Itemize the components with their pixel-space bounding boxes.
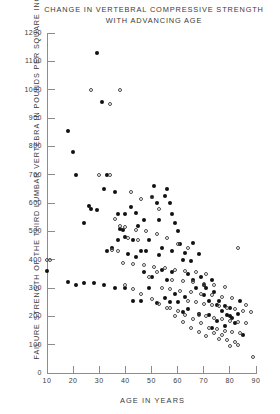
- data-point-filled: [116, 212, 120, 216]
- data-point-filled: [176, 300, 180, 304]
- data-point-open: [244, 321, 248, 325]
- data-point-open: [236, 246, 240, 250]
- data-point-filled: [100, 100, 104, 104]
- data-point-open: [236, 343, 240, 347]
- data-point-filled: [136, 224, 140, 228]
- data-point-filled: [82, 281, 86, 285]
- data-point-open: [118, 88, 122, 92]
- data-point-open: [176, 309, 180, 313]
- data-point-open: [215, 327, 219, 331]
- data-point-filled: [139, 249, 143, 253]
- data-point-filled: [45, 269, 49, 273]
- x-axis-line: [47, 373, 257, 374]
- x-tick-70: [203, 366, 204, 373]
- data-point-open: [223, 285, 227, 289]
- data-point-filled: [217, 299, 221, 303]
- data-point-open: [233, 307, 237, 311]
- data-point-open: [202, 282, 206, 286]
- data-point-filled: [197, 252, 201, 256]
- data-point-filled: [155, 201, 159, 205]
- data-point-open: [150, 195, 154, 199]
- data-point-open: [212, 316, 216, 320]
- data-point-open: [126, 236, 130, 240]
- y-tick-label-300: 300: [16, 284, 42, 291]
- data-point-open: [191, 317, 195, 321]
- data-point-open: [199, 321, 203, 325]
- y-tick-label-700: 700: [16, 171, 42, 178]
- data-point-open: [194, 270, 198, 274]
- y-tick-label-900: 900: [16, 114, 42, 121]
- y-tick-label-600: 600: [16, 199, 42, 206]
- y-tick-500: [48, 231, 55, 232]
- x-tick-label-70: 70: [195, 377, 213, 384]
- data-point-open: [48, 258, 52, 262]
- data-point-open: [147, 275, 151, 279]
- x-tick-50: [151, 366, 152, 373]
- data-point-open: [236, 320, 240, 324]
- data-point-filled: [102, 283, 106, 287]
- data-point-open: [123, 225, 127, 229]
- data-point-open: [212, 331, 216, 335]
- data-point-filled: [147, 238, 151, 242]
- data-point-filled: [165, 187, 169, 191]
- x-tick-label-80: 80: [221, 377, 239, 384]
- data-point-open: [249, 310, 253, 314]
- data-point-open: [131, 262, 135, 266]
- x-tick-label-90: 90: [247, 377, 265, 384]
- data-point-filled: [163, 296, 167, 300]
- data-point-filled: [236, 312, 240, 316]
- data-point-open: [210, 293, 214, 297]
- data-point-open: [165, 236, 169, 240]
- x-tick-label-10: 10: [38, 377, 56, 384]
- data-point-open: [228, 344, 232, 348]
- data-point-open: [176, 242, 180, 246]
- y-tick-label-1100: 1100: [16, 57, 42, 64]
- y-tick-0: [48, 373, 55, 374]
- data-point-open: [181, 320, 185, 324]
- data-point-filled: [163, 194, 167, 198]
- data-point-filled: [74, 283, 78, 287]
- data-point-open: [142, 263, 146, 267]
- data-point-open: [186, 299, 190, 303]
- data-point-filled: [123, 212, 127, 216]
- data-point-filled: [131, 238, 135, 242]
- y-tick-700: [48, 174, 55, 175]
- data-point-filled: [168, 300, 172, 304]
- data-point-open: [251, 355, 255, 359]
- data-point-filled: [113, 286, 117, 290]
- data-point-open: [197, 313, 201, 317]
- x-tick-label-50: 50: [143, 377, 161, 384]
- data-point-open: [168, 287, 172, 291]
- data-point-open: [241, 309, 245, 313]
- data-point-open: [220, 317, 224, 321]
- data-point-filled: [95, 51, 99, 55]
- data-point-open: [207, 326, 211, 330]
- data-point-open: [118, 224, 122, 228]
- data-point-open: [150, 297, 154, 301]
- data-point-open: [136, 238, 140, 242]
- data-point-filled: [173, 292, 177, 296]
- y-tick-200: [48, 316, 55, 317]
- data-point-open: [220, 295, 224, 299]
- data-point-filled: [126, 252, 130, 256]
- data-point-filled: [220, 309, 224, 313]
- data-point-open: [129, 190, 133, 194]
- data-point-open: [230, 296, 234, 300]
- data-point-filled: [199, 275, 203, 279]
- data-point-open: [194, 300, 198, 304]
- data-point-open: [178, 289, 182, 293]
- data-point-open: [108, 173, 112, 177]
- data-point-filled: [170, 249, 174, 253]
- data-point-filled: [168, 201, 172, 205]
- y-axis-line: [47, 33, 48, 374]
- x-tick-40: [125, 366, 126, 373]
- data-point-filled: [160, 246, 164, 250]
- y-tick-label-800: 800: [16, 142, 42, 149]
- data-point-open: [204, 314, 208, 318]
- data-point-filled: [71, 150, 75, 154]
- data-point-open: [131, 287, 135, 291]
- data-point-open: [134, 228, 138, 232]
- data-point-filled: [176, 229, 180, 233]
- data-point-filled: [186, 272, 190, 276]
- data-point-open: [191, 280, 195, 284]
